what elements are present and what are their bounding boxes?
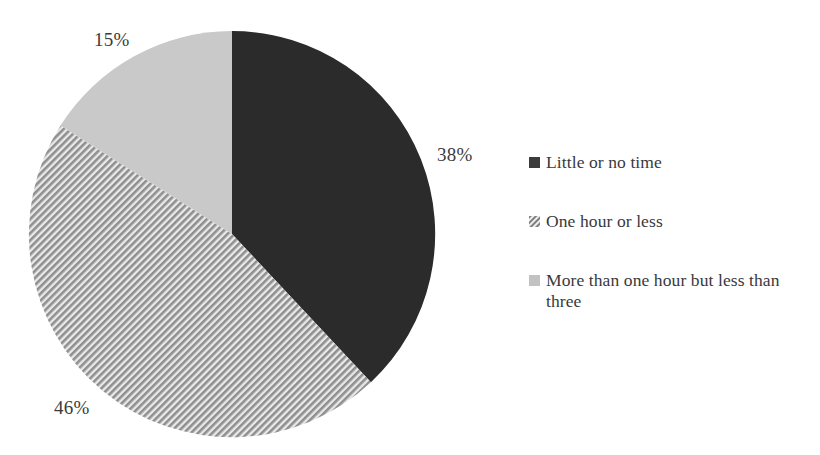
- solid-light-gray-swatch-icon: [529, 275, 540, 286]
- pie-chart-figure: 38% 46% 15% Little or no time One hour o…: [0, 0, 820, 455]
- legend-label-more-than-one-hour: More than one hour but less than three: [546, 270, 798, 312]
- pie-label-46-percent: 46%: [54, 397, 89, 419]
- diagonal-hatch-swatch-icon: [529, 216, 540, 227]
- legend-item-more-than-one-hour[interactable]: More than one hour but less than three: [529, 270, 814, 312]
- pie-label-15-percent: 15%: [94, 29, 129, 51]
- legend-item-one-hour-or-less[interactable]: One hour or less: [529, 211, 814, 232]
- pie-chart-plot-area: 38% 46% 15%: [0, 0, 500, 455]
- pie-chart-svg: [0, 0, 500, 455]
- legend-label-little-or-no-time: Little or no time: [546, 152, 662, 173]
- chart-legend: Little or no time One hour or less More …: [529, 152, 814, 312]
- legend-label-one-hour-or-less: One hour or less: [546, 211, 663, 232]
- solid-dark-swatch-icon: [529, 157, 540, 168]
- pie-label-38-percent: 38%: [437, 144, 472, 166]
- legend-item-little-or-no-time[interactable]: Little or no time: [529, 152, 814, 173]
